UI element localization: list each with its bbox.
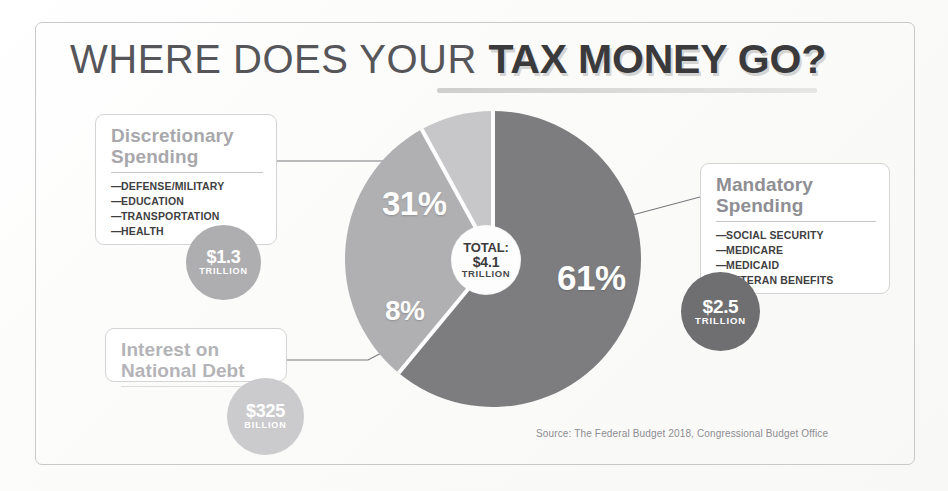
amount-value: $1.3 <box>207 248 241 267</box>
dash-marker: — <box>111 209 121 224</box>
title-bold-text: TAX MONEY GO? <box>488 36 826 82</box>
list-item: —DEFENSE/MILITARY <box>111 179 263 194</box>
source-attribution: Source: The Federal Budget 2018, Congres… <box>536 428 828 439</box>
pie-center-total: TOTAL: $4.1 TRILLION <box>452 226 520 294</box>
dash-marker: — <box>111 194 121 209</box>
list-item: —MEDICARE <box>716 243 876 258</box>
callout-interest-title: Interest on National Debt <box>121 339 273 382</box>
list-item-label: SOCIAL SECURITY <box>726 229 824 241</box>
list-item-label: MEDICAID <box>726 259 779 271</box>
callout-divider <box>716 221 876 222</box>
list-item: —EDUCATION <box>111 194 263 209</box>
callout-interest-title-line2: National Debt <box>121 360 245 381</box>
title-light-text: WHERE DOES YOUR <box>70 37 488 81</box>
list-item-label: DEFENSE/MILITARY <box>121 180 224 192</box>
callout-discretionary-title: Discretionary Spending <box>111 125 263 168</box>
page-title: WHERE DOES YOUR TAX MONEY GO? <box>70 36 870 94</box>
amount-value: $2.5 <box>703 297 739 317</box>
total-amount: $4.1 <box>473 255 499 270</box>
amount-badge-interest: $325 BILLION <box>227 378 304 455</box>
callout-mandatory-title-line2: Spending <box>716 195 803 216</box>
list-item-label: EDUCATION <box>121 195 184 207</box>
callout-mandatory-title: Mandatory Spending <box>716 174 876 217</box>
amount-unit: BILLION <box>244 421 286 430</box>
dash-marker: — <box>716 228 726 243</box>
amount-value: $325 <box>246 402 285 421</box>
list-item: —TRANSPORTATION <box>111 209 263 224</box>
callout-discretionary-title-line2: Spending <box>111 146 198 167</box>
total-unit: TRILLION <box>462 269 511 279</box>
pie-label-interest: 8% <box>385 295 424 327</box>
total-label: TOTAL: <box>463 241 508 255</box>
dash-marker: — <box>716 258 726 273</box>
pie-label-mandatory: 61% <box>557 258 626 298</box>
pie-label-discretionary: 31% <box>382 185 447 223</box>
list-item-label: MEDICARE <box>726 244 783 256</box>
dash-marker: — <box>111 179 121 194</box>
callout-divider <box>111 172 263 173</box>
amount-unit: TRILLION <box>695 316 746 326</box>
callout-interest-national-debt[interactable]: Interest on National Debt <box>105 328 287 382</box>
amount-badge-discretionary: $1.3 TRILLION <box>186 225 261 300</box>
list-item-label: HEALTH <box>121 225 164 237</box>
list-item: —MEDICAID <box>716 258 876 273</box>
amount-unit: TRILLION <box>199 267 248 276</box>
infographic-page: WHERE DOES YOUR TAX MONEY GO? 31% 61% 8%… <box>0 0 948 491</box>
dash-marker: — <box>111 224 121 239</box>
callout-discretionary-spending[interactable]: Discretionary Spending —DEFENSE/MILITARY… <box>95 114 277 245</box>
dash-marker: — <box>716 243 726 258</box>
list-item-label: TRANSPORTATION <box>121 210 220 222</box>
callout-interest-title-line1: Interest on <box>121 339 219 360</box>
amount-badge-mandatory: $2.5 TRILLION <box>681 272 760 351</box>
title-underline-accent <box>437 88 817 93</box>
callout-mandatory-title-line1: Mandatory <box>716 174 813 195</box>
callout-discretionary-title-line1: Discretionary <box>111 125 234 146</box>
list-item: —SOCIAL SECURITY <box>716 228 876 243</box>
